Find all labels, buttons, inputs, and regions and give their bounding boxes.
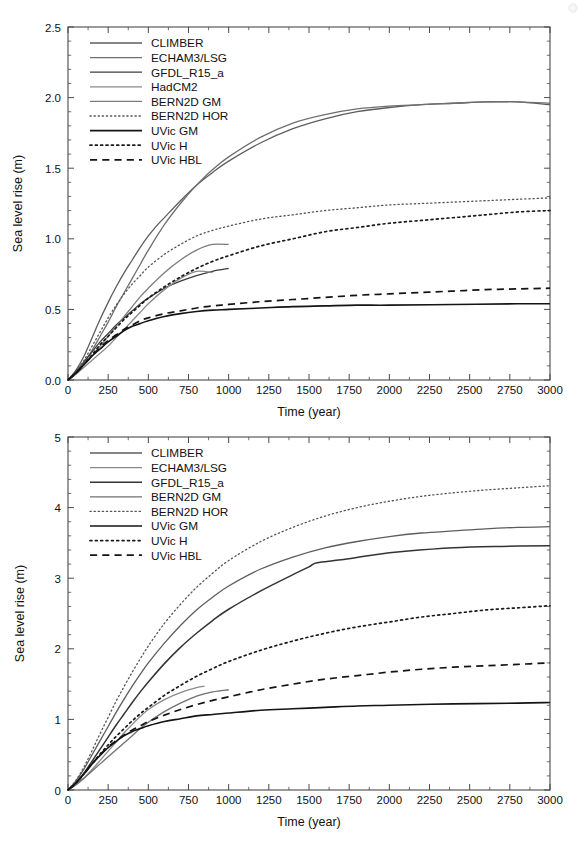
x-tick-label: 2500 [457, 794, 483, 806]
x-tick-label: 2750 [497, 384, 523, 396]
y-tick-label: 3 [55, 573, 61, 585]
y-axis-label: Sea level rise (m) [13, 565, 27, 662]
page-corner-artifact [567, 2, 579, 14]
x-tick-label: 500 [139, 384, 158, 396]
legend-label-uvic-gm: UVic GM [151, 519, 198, 533]
series-line-bern2d-hor [68, 198, 550, 380]
x-tick-label: 2500 [457, 384, 483, 396]
x-tick-label: 250 [99, 384, 118, 396]
y-tick-label: 1.5 [45, 163, 61, 175]
x-tick-label: 750 [179, 794, 198, 806]
series-line-echam3-lsg [68, 102, 550, 380]
x-tick-label: 3000 [537, 384, 563, 396]
legend-label-bern2d-hor: BERN2D HOR [151, 109, 228, 123]
legend-label-gfdl-r15-a: GFDL_R15_a [151, 66, 224, 80]
series-line-uvic-h [68, 606, 550, 790]
chart-top-svg: 0250500750100012501500175020002250250027… [0, 0, 585, 420]
x-tick-label: 3000 [537, 794, 563, 806]
series-line-uvic-gm [68, 702, 550, 790]
series-line-uvic-gm [68, 304, 550, 380]
x-tick-label: 2750 [497, 794, 523, 806]
x-tick-label: 1000 [216, 794, 242, 806]
legend-label-bern2d-gm: BERN2D GM [151, 95, 221, 109]
data-series-group [68, 102, 550, 380]
legend-label-uvic-hbl: UVic HBL [151, 549, 202, 563]
x-tick-label: 1750 [336, 794, 362, 806]
series-line-uvic-hbl [68, 288, 550, 380]
x-tick-label: 500 [139, 794, 158, 806]
x-tick-label: 1250 [256, 384, 282, 396]
y-tick-label: 0.0 [45, 375, 61, 387]
y-tick-label: 2.0 [45, 92, 61, 104]
series-line-uvic-h [68, 211, 550, 380]
chart-panel-bottom: 0250500750100012501500175020002250250027… [0, 420, 585, 846]
x-tick-label: 2250 [417, 384, 443, 396]
legend-label-climber: CLIMBER [151, 36, 203, 50]
x-tick-label: 1000 [216, 384, 242, 396]
legend-label-bern2d-gm: BERN2D GM [151, 490, 221, 504]
series-line-uvic-hbl [68, 663, 550, 790]
legend-label-uvic-h: UVic H [151, 534, 188, 548]
legend: CLIMBERECHAM3/LSGGFDL_R15_aBERN2D GMBERN… [90, 446, 228, 562]
x-tick-label: 0 [65, 794, 71, 806]
legend-label-gfdl-r15-a: GFDL_R15_a [151, 476, 224, 490]
x-tick-label: 1500 [296, 794, 322, 806]
chart-bottom-svg: 0250500750100012501500175020002250250027… [0, 420, 585, 846]
legend-label-hadcm2: HadCM2 [151, 80, 198, 94]
legend-label-uvic-h: UVic H [151, 139, 188, 153]
x-tick-label: 750 [179, 384, 198, 396]
x-tick-label: 250 [99, 794, 118, 806]
x-tick-label: 1250 [256, 794, 282, 806]
chart-panel-top: 0250500750100012501500175020002250250027… [0, 0, 585, 420]
x-axis: 0250500750100012501500175020002250250027… [65, 437, 563, 806]
series-line-gfdl-r15-a [68, 546, 550, 790]
series-line-hadcm2 [68, 271, 213, 380]
y-tick-label: 2 [55, 643, 61, 655]
y-tick-label: 2.5 [45, 22, 61, 34]
legend: CLIMBERECHAM3/LSGGFDL_R15_aHadCM2BERN2D … [90, 36, 228, 167]
series-line-gfdl-r15-a [68, 268, 229, 380]
y-axis-label: Sea level rise (m) [11, 155, 25, 252]
legend-label-uvic-gm: UVic GM [151, 124, 198, 138]
y-tick-label: 1 [55, 714, 61, 726]
legend-label-climber: CLIMBER [151, 446, 203, 460]
legend-label-bern2d-hor: BERN2D HOR [151, 505, 228, 519]
figure-sea-level-rise: 0250500750100012501500175020002250250027… [0, 0, 585, 846]
x-tick-label: 2000 [377, 794, 403, 806]
y-tick-label: 4 [55, 502, 62, 514]
y-tick-label: 0.5 [45, 304, 61, 316]
legend-label-uvic-hbl: UVic HBL [151, 153, 202, 167]
data-series-group [68, 486, 550, 790]
series-line-bern2d-gm [68, 690, 229, 790]
y-axis: 012345 [55, 432, 550, 797]
series-line-bern2d-hor [68, 486, 550, 790]
legend-label-echam3-lsg: ECHAM3/LSG [151, 461, 227, 475]
y-tick-label: 0 [55, 785, 61, 797]
x-tick-label: 1500 [296, 384, 322, 396]
x-axis-label: Time (year) [277, 815, 340, 829]
x-tick-label: 2250 [417, 794, 443, 806]
x-tick-label: 1750 [336, 384, 362, 396]
x-tick-label: 0 [65, 384, 71, 396]
x-tick-label: 2000 [377, 384, 403, 396]
series-line-climber [68, 102, 550, 380]
y-tick-label: 1.0 [45, 233, 61, 245]
axes-frame [68, 27, 550, 380]
y-tick-label: 5 [55, 432, 61, 444]
y-axis: 0.00.51.01.52.02.5 [45, 22, 550, 387]
legend-label-echam3-lsg: ECHAM3/LSG [151, 51, 227, 65]
x-axis-label: Time (year) [277, 405, 340, 419]
